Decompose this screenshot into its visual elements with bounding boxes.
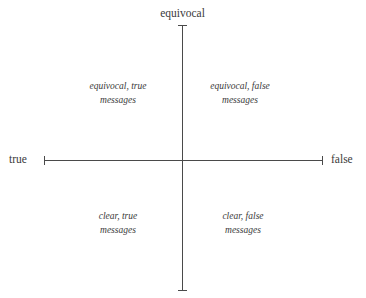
quadrant-label-clear-false: clear, false messages [183, 210, 303, 238]
axis-label-equivocal: equivocal [0, 7, 366, 20]
quadrant-label-clear-true: clear, true messages [58, 210, 178, 238]
quadrant-diagram: equivocal true false equivocal, true mes… [0, 0, 366, 298]
horizontal-axis-right-tick [322, 156, 323, 165]
quadrant-label-equivocal-true: equivocal, true messages [58, 80, 178, 108]
vertical-axis-line [182, 25, 183, 290]
axis-label-false: false [331, 153, 353, 166]
quadrant-label-equivocal-false: equivocal, false messages [180, 80, 300, 108]
horizontal-axis-left-tick [44, 156, 45, 165]
vertical-axis-top-tick [178, 25, 187, 26]
axis-label-true: true [9, 153, 27, 166]
vertical-axis-bottom-tick [178, 290, 187, 291]
horizontal-axis-line [44, 160, 323, 161]
